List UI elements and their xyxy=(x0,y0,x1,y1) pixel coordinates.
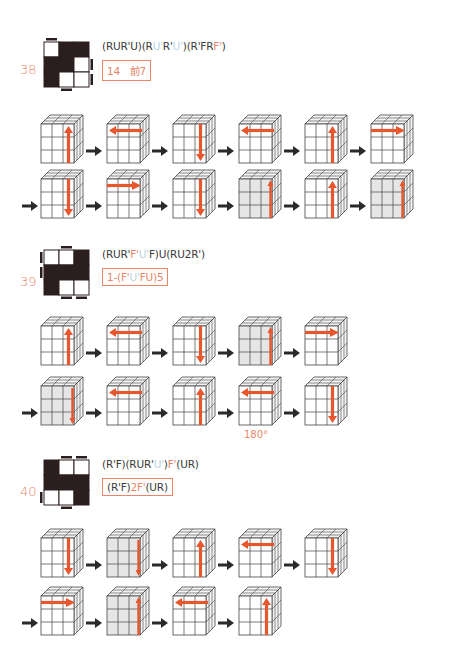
notation-segment: U' xyxy=(130,271,140,283)
arrow-left-cube-icon xyxy=(106,315,150,367)
arrow-up-cube-icon xyxy=(172,375,216,427)
arrow-right-icon xyxy=(86,618,102,628)
cube-step xyxy=(238,168,282,220)
next-step-arrow-icon xyxy=(152,613,168,632)
cube-step xyxy=(40,113,84,165)
arrow-right-icon xyxy=(86,560,102,570)
notation-segment: U' xyxy=(154,458,164,470)
sticker xyxy=(59,72,74,87)
next-step-arrow-icon xyxy=(218,613,234,632)
arrow-right-icon xyxy=(152,408,168,418)
finger-trick-note-box: 1-(F'U'FU)5 xyxy=(102,268,168,286)
arrow-right-cube-icon xyxy=(106,168,150,220)
arrow-right-icon xyxy=(152,146,168,156)
sticker xyxy=(74,72,89,87)
arrow-up-cube-icon xyxy=(304,113,348,165)
cube-step xyxy=(304,315,348,367)
notation-segment: (R'F)(RUR' xyxy=(102,458,154,470)
cube-step xyxy=(40,168,84,220)
notation-segment: FU)5 xyxy=(140,271,164,283)
arrow-right-icon xyxy=(284,408,300,418)
cube-step xyxy=(172,168,216,220)
next-step-arrow-icon xyxy=(218,141,234,160)
sticker xyxy=(74,57,89,72)
arrow-right-icon xyxy=(218,560,234,570)
algorithm-formula: (RUR'F'U'F)U(RU2R') xyxy=(102,248,205,260)
arrow-down-cube-icon xyxy=(304,375,348,427)
sticker xyxy=(74,490,89,505)
next-step-arrow-icon xyxy=(22,403,38,422)
notation-segment: U' xyxy=(153,40,163,52)
sticker xyxy=(44,42,59,57)
cube-step xyxy=(304,527,348,579)
arrow-right-icon xyxy=(152,618,168,628)
side-sticker xyxy=(61,297,72,300)
side-sticker xyxy=(61,246,72,249)
cube-step xyxy=(238,315,282,367)
cube-step xyxy=(238,585,282,637)
oll-pattern xyxy=(40,38,93,95)
arrow-right-icon xyxy=(284,201,300,211)
side-sticker xyxy=(40,252,43,263)
case-number: 38 xyxy=(20,62,37,77)
side-sticker xyxy=(61,456,72,459)
next-step-arrow-icon xyxy=(284,403,300,422)
arrow-up-cube-icon xyxy=(106,585,150,637)
sticker xyxy=(44,72,59,87)
arrow-left-cube-icon xyxy=(238,113,282,165)
arrow-right-icon xyxy=(152,560,168,570)
notation-segment: F' xyxy=(213,40,222,52)
cube-step xyxy=(304,168,348,220)
arrow-up-cube-icon xyxy=(304,168,348,220)
sticker xyxy=(74,460,89,475)
side-sticker xyxy=(61,507,72,510)
sticker xyxy=(44,490,59,505)
arrow-right-icon xyxy=(86,146,102,156)
sticker xyxy=(44,280,59,295)
arrow-left-cube-icon xyxy=(238,527,282,579)
arrow-down-cube-icon xyxy=(40,527,84,579)
side-sticker xyxy=(61,89,72,92)
oll-pattern-diagram xyxy=(40,38,93,91)
sticker xyxy=(74,475,89,490)
case-number: 39 xyxy=(20,274,37,289)
notation-segment: (RUR'U)(R xyxy=(102,40,153,52)
cube-step xyxy=(172,375,216,427)
cube-step xyxy=(172,113,216,165)
next-step-arrow-icon xyxy=(218,403,234,422)
cube-step xyxy=(370,168,414,220)
sticker xyxy=(74,265,89,280)
arrow-right-icon xyxy=(284,348,300,358)
arrow-right-icon xyxy=(218,618,234,628)
algorithm-formula: (R'F)(RUR'U')F'(UR) xyxy=(102,458,199,470)
next-step-arrow-icon xyxy=(86,343,102,362)
oll-pattern xyxy=(40,246,93,303)
cube-step xyxy=(106,315,150,367)
arrow-up-cube-icon xyxy=(370,168,414,220)
next-step-arrow-icon xyxy=(284,555,300,574)
arrow-down-cube-icon xyxy=(106,527,150,579)
cube-step xyxy=(304,375,348,427)
cube-step xyxy=(40,527,84,579)
arrow-down-cube-icon xyxy=(40,168,84,220)
cube-step xyxy=(172,527,216,579)
arrow-right-icon xyxy=(218,408,234,418)
oll-pattern-diagram xyxy=(40,456,93,509)
notation-segment: (R'F) xyxy=(107,481,130,493)
sticker xyxy=(59,490,74,505)
arrow-down-cube-icon xyxy=(172,113,216,165)
cube-step xyxy=(106,375,150,427)
arrow-up-cube-icon xyxy=(238,168,282,220)
notation-segment: U' xyxy=(139,248,149,260)
algorithm-formula: (RUR'U)(RU'R'U')(R'FRF') xyxy=(102,40,226,52)
arrow-up-cube-icon xyxy=(238,315,282,367)
side-sticker xyxy=(76,297,87,300)
sticker xyxy=(44,460,59,475)
notation-segment: U' xyxy=(173,40,183,52)
arrow-right-icon xyxy=(350,201,366,211)
notation-segment: F)U(RU2R') xyxy=(149,248,205,260)
next-step-arrow-icon xyxy=(86,196,102,215)
arrow-right-icon xyxy=(22,201,38,211)
sticker xyxy=(44,250,59,265)
arrow-up-cube-icon xyxy=(40,113,84,165)
